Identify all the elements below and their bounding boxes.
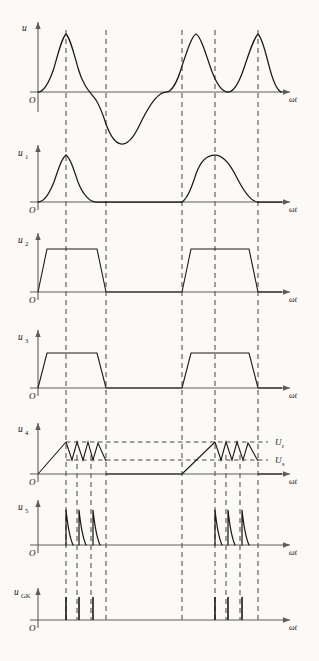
panel-u4-origin-label: O <box>29 477 36 487</box>
panel-u5-spike-3 <box>93 510 100 545</box>
panel-u5-spike-6 <box>242 510 249 545</box>
panel-u3-x-label: ωt <box>289 391 298 400</box>
panel-ugk: u GK O ωt <box>14 587 298 633</box>
panel-u1: u 1 O ωt <box>18 145 298 215</box>
panel-u-sine-curve <box>38 34 282 144</box>
panel-u4-sawtooth-2 <box>215 442 258 461</box>
panel-u1-x-arrow <box>283 199 290 205</box>
panel-u1-x-label: ωt <box>289 205 298 214</box>
upper-threshold-label: U <box>275 437 282 447</box>
panel-u2-y-sub: 2 <box>25 240 28 247</box>
lower-threshold-label: U <box>275 455 282 465</box>
panel-ugk-origin-label: O <box>29 623 36 633</box>
panel-u2-y-label: u <box>18 235 23 245</box>
panel-u4-y-arrow <box>35 423 40 430</box>
panel-u4-y-label: u <box>18 424 23 434</box>
panel-u5-spike-5 <box>228 510 235 545</box>
panel-ugk-y-arrow <box>35 588 40 595</box>
panel-ugk-x-arrow <box>283 617 290 623</box>
waveform-figure: u O ωt u 1 O ωt <box>0 0 319 661</box>
panel-u1-arc-1 <box>38 155 106 202</box>
panel-u-y-arrow <box>35 22 40 29</box>
panel-u-x-label: ωt <box>289 95 298 104</box>
panel-ugk-x-label: ωt <box>289 623 298 632</box>
panel-u2-y-arrow <box>35 233 40 240</box>
panel-u4: u 4 O ωt U r U s <box>18 423 298 487</box>
panel-u1-y-arrow <box>35 145 40 152</box>
panel-u5-origin-label: O <box>29 548 36 558</box>
panel-u2-x-arrow <box>283 289 290 295</box>
panel-u5-spike-2 <box>79 510 86 545</box>
panel-u5: u 5 O ωt <box>18 500 298 558</box>
panel-u1-y-sub: 1 <box>25 153 28 160</box>
panel-u-y-label: u <box>22 23 27 33</box>
panel-u5-y-sub: 5 <box>25 507 29 514</box>
waveform-diagram: u O ωt u 1 O ωt <box>0 0 319 661</box>
panel-u3-y-label: u <box>18 332 23 342</box>
panel-u4-y-sub: 4 <box>25 429 29 436</box>
panel-u2-origin-label: O <box>29 295 36 305</box>
panel-u5-y-label: u <box>18 502 23 512</box>
panel-u4-ramp-1 <box>38 442 66 474</box>
panel-u1-origin-label: O <box>29 205 36 215</box>
panel-u5-x-label: ωt <box>289 548 298 557</box>
panel-u2-x-label: ωt <box>289 295 298 304</box>
panel-u2-trapezoid-2 <box>182 249 258 292</box>
panel-u5-spike-4 <box>215 510 222 545</box>
timing-dashed-lines <box>66 30 258 620</box>
panel-u4-x-arrow <box>283 471 290 477</box>
panel-ugk-y-label: u <box>14 587 19 597</box>
lower-threshold-sub: s <box>282 460 285 467</box>
panel-u3-origin-label: O <box>29 391 36 401</box>
panel-u3-trapezoid-1 <box>38 353 106 388</box>
panel-u2: u 2 O ωt <box>18 233 298 305</box>
panel-u3-trapezoid-2 <box>182 353 258 388</box>
panel-u5-x-arrow <box>283 542 290 548</box>
panel-u3-y-sub: 3 <box>25 337 29 344</box>
panel-u-origin-label: O <box>29 95 36 105</box>
panel-u2-trapezoid-1 <box>38 249 106 292</box>
panel-u3-x-arrow <box>283 385 290 391</box>
panel-u4-sawtooth-1 <box>66 442 106 461</box>
panel-u1-y-label: u <box>18 148 23 158</box>
panel-u3: u 3 O ωt <box>18 330 298 401</box>
panel-u5-spike-1 <box>66 510 73 545</box>
panel-u1-arc-2 <box>182 155 258 202</box>
panel-u4-ramp-2 <box>182 442 215 474</box>
panel-u3-y-arrow <box>35 330 40 337</box>
panel-ugk-y-sub: GK <box>21 592 31 599</box>
upper-threshold-sub: r <box>282 442 285 449</box>
panel-u-x-arrow <box>283 89 290 95</box>
panel-u4-x-label: ωt <box>289 477 298 486</box>
panel-u: u O ωt <box>22 22 298 144</box>
panel-u5-y-arrow <box>35 500 40 507</box>
